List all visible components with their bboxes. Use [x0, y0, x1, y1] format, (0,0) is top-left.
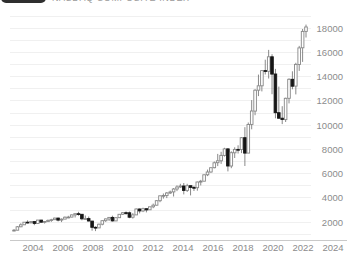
candle-body-2022Q3 [278, 113, 281, 119]
candle-body-2016Q3 [196, 182, 199, 188]
chart-screen: NASDAQ COMPOSITE INDEX 20004000600080001… [0, 0, 357, 263]
candle-body-2006Q3 [60, 219, 63, 220]
candle-body-2021Q4 [267, 57, 270, 72]
candle-body-2023Q2 [288, 79, 291, 98]
candle-body-2015Q3 [183, 186, 186, 190]
candle-body-2021Q1 [257, 86, 260, 90]
candle-body-2014Q4 [172, 189, 175, 192]
candle-body-2008Q1 [81, 214, 84, 219]
candle-body-2017Q3 [210, 168, 213, 172]
candle-body-2013Q2 [152, 205, 155, 207]
candle-body-2011Q1 [121, 213, 124, 215]
candle-body-2004Q2 [30, 222, 33, 223]
candle-body-2004Q4 [37, 220, 40, 223]
candle-body-2006Q2 [57, 218, 60, 220]
candle-body-2019Q1 [230, 153, 233, 166]
candle-body-2003Q2 [16, 227, 19, 230]
candle-body-2018Q4 [227, 149, 230, 166]
x-axis-label: 2018 [232, 242, 253, 253]
candlestick-chart-canvas: 2000400060008000100001200014000160001800… [0, 0, 357, 263]
y-axis-label: 8000 [322, 144, 343, 155]
candle-body-2016Q2 [193, 187, 196, 188]
x-axis-label: 2016 [202, 242, 223, 253]
candle-body-2015Q1 [176, 187, 179, 189]
candle-body-2010Q1 [108, 217, 111, 219]
candle-body-2014Q3 [169, 192, 172, 193]
candle-body-2021Q3 [264, 71, 267, 72]
candle-body-2008Q2 [84, 219, 87, 220]
candle-body-2009Q4 [104, 219, 107, 221]
candle-body-2013Q1 [149, 207, 152, 210]
candle-body-2020Q4 [254, 90, 257, 111]
candle-body-2020Q1 [244, 138, 247, 153]
candle-body-2015Q2 [179, 186, 182, 187]
candle-body-2020Q2 [247, 125, 250, 154]
candle-body-2012Q1 [135, 209, 138, 215]
candle-body-2009Q3 [101, 221, 104, 225]
candle-body-2012Q3 [142, 209, 145, 211]
candle-body-2023Q4 [295, 64, 298, 86]
candle-body-2019Q3 [237, 149, 240, 150]
x-axis-label: 2022 [292, 242, 313, 253]
candle-body-2024Q3 [305, 27, 308, 31]
candle-body-2008Q4 [91, 221, 94, 227]
y-axis-label: 6000 [322, 168, 343, 179]
candle-body-2013Q3 [155, 201, 158, 206]
candle-body-2004Q3 [33, 222, 36, 224]
candle-body-2012Q2 [138, 209, 141, 211]
candle-body-2014Q1 [162, 196, 165, 197]
candle-body-2023Q3 [291, 79, 294, 86]
candle-body-2016Q4 [199, 181, 202, 182]
candle-body-2006Q4 [64, 217, 67, 219]
candle-body-2017Q4 [213, 163, 216, 168]
candle-body-2010Q2 [111, 217, 114, 221]
x-axis-label: 2014 [172, 242, 193, 253]
y-axis-label: 12000 [317, 95, 343, 106]
candle-body-2020Q3 [250, 111, 253, 124]
candle-body-2007Q2 [70, 215, 73, 217]
x-axis-label: 2006 [52, 242, 73, 253]
x-axis-label: 2004 [22, 242, 43, 253]
candle-body-2013Q4 [159, 196, 162, 201]
candle-body-2019Q4 [240, 138, 243, 150]
candle-body-2022Q4 [281, 118, 284, 119]
candle-body-2003Q1 [13, 230, 16, 231]
x-axis-label: 2010 [112, 242, 133, 253]
candle-body-2018Q1 [216, 161, 219, 163]
y-axis-label: 14000 [317, 71, 343, 82]
candle-body-2007Q3 [74, 214, 77, 215]
candle-body-2009Q2 [98, 224, 101, 228]
candle-body-2009Q1 [94, 227, 97, 228]
candle-body-2024Q1 [298, 48, 301, 65]
candle-body-2018Q3 [223, 149, 226, 156]
candle-body-2005Q1 [40, 220, 43, 222]
candle-body-2006Q1 [53, 218, 56, 220]
candle-body-2017Q1 [203, 175, 206, 181]
candle-body-2008Q3 [87, 219, 90, 221]
candle-body-2012Q4 [145, 209, 148, 210]
candle-body-2007Q4 [77, 214, 80, 215]
x-axis-label: 2024 [322, 242, 343, 253]
candle-body-2023Q1 [284, 98, 287, 119]
y-axis-label: 16000 [317, 47, 343, 58]
candle-body-2007Q1 [67, 217, 70, 218]
candle-body-2010Q4 [118, 214, 121, 217]
y-axis-label: 18000 [317, 23, 343, 34]
candle-body-2014Q2 [166, 193, 169, 196]
candle-body-2017Q2 [206, 172, 209, 175]
y-axis-label: 2000 [322, 217, 343, 228]
y-axis-label: 4000 [322, 192, 343, 203]
candle-body-2004Q1 [26, 222, 29, 223]
x-axis-label: 2008 [82, 242, 103, 253]
x-axis-label: 2012 [142, 242, 163, 253]
candle-body-2011Q2 [125, 213, 128, 214]
candle-body-2022Q2 [274, 74, 277, 113]
candle-body-2011Q3 [128, 213, 131, 217]
candle-body-2018Q2 [220, 155, 223, 160]
candle-body-2024Q2 [301, 31, 304, 47]
candle-body-2019Q2 [233, 149, 236, 152]
candle-body-2021Q2 [261, 71, 264, 86]
candle-body-2022Q1 [271, 57, 274, 74]
candle-body-2010Q3 [115, 218, 118, 221]
candle-body-2003Q4 [23, 222, 26, 225]
